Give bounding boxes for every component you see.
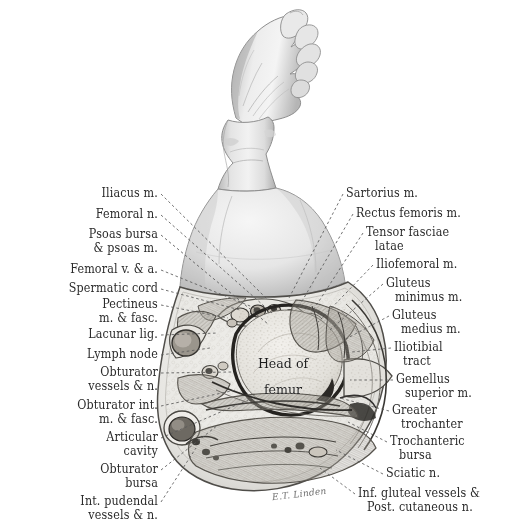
label-gluteus-minimus-line1: Gluteus bbox=[386, 276, 463, 290]
label-articular-cavity-line1: Articular bbox=[106, 430, 158, 444]
label-obturator-int-line2: m. & fasc. bbox=[77, 412, 158, 426]
label-femoral-v-a-line1: Femoral v. & a. bbox=[70, 262, 158, 276]
head-of-femur-line1: Head of bbox=[258, 356, 308, 371]
head-of-femur-line2: femur bbox=[264, 382, 302, 397]
label-femoral-nerve-line1: Femoral n. bbox=[96, 207, 158, 221]
foot-illustration bbox=[232, 10, 321, 124]
label-pectineus-line1: Pectineus bbox=[90, 297, 158, 311]
label-greater-troch-line1: Greater bbox=[392, 403, 463, 417]
label-iliotibial-tract-line1: Iliotibial bbox=[394, 340, 443, 354]
label-int-pudendal-line2: vessels & n. bbox=[79, 508, 158, 522]
label-femoral-v-a: Femoral v. & a. bbox=[70, 262, 158, 276]
label-iliotibial-tract-line2: tract bbox=[394, 354, 443, 368]
label-obturator-int-line1: Obturator int. bbox=[77, 398, 158, 412]
label-lacunar-lig-line1: Lacunar lig. bbox=[88, 327, 158, 341]
label-femoral-nerve: Femoral n. bbox=[96, 207, 158, 221]
label-spermatic-cord: Spermatic cord bbox=[69, 281, 158, 295]
head-of-femur-label: Head of femur bbox=[232, 344, 318, 409]
label-rectus-femoris-line1: Rectus femoris m. bbox=[356, 206, 461, 220]
label-int-pudendal: Int. pudendalvessels & n. bbox=[79, 494, 158, 521]
label-sartorius-line1: Sartorius m. bbox=[346, 186, 418, 200]
leg-illustration bbox=[218, 117, 276, 191]
label-gemellus-superior: Gemellussuperior m. bbox=[396, 372, 472, 399]
label-psoas-bursa-line1: Psoas bursa bbox=[84, 227, 158, 241]
label-sciatic-nerve: Sciatic n. bbox=[386, 466, 440, 480]
label-gluteus-minimus: Gluteusminimus m. bbox=[386, 276, 463, 303]
label-spermatic-cord-line1: Spermatic cord bbox=[69, 281, 158, 295]
label-gemellus-superior-line1: Gemellus bbox=[396, 372, 472, 386]
label-tensor-fasciae: Tensor fasciaelatae bbox=[366, 225, 449, 252]
label-trochanteric-bursa-line2: bursa bbox=[390, 448, 465, 462]
label-articular-cavity: Articularcavity bbox=[106, 430, 158, 457]
label-psoas-bursa: Psoas bursa& psoas m. bbox=[84, 227, 158, 254]
label-iliacus: Iliacus m. bbox=[102, 186, 158, 200]
label-gluteus-minimus-line2: minimus m. bbox=[386, 290, 463, 304]
label-obturator-vessels-line2: vessels & n. bbox=[79, 379, 158, 393]
label-lymph-node: Lymph node bbox=[87, 347, 158, 361]
label-sartorius: Sartorius m. bbox=[346, 186, 418, 200]
label-inf-gluteal-line2: Post. cutaneous n. bbox=[358, 500, 480, 514]
label-tensor-fasciae-line1: Tensor fasciae bbox=[366, 225, 449, 239]
label-gluteus-medius: Gluteusmedius m. bbox=[392, 308, 461, 335]
label-inf-gluteal-line1: Inf. gluteal vessels & bbox=[358, 486, 480, 500]
label-obturator-bursa: Obturatorbursa bbox=[100, 462, 158, 489]
label-pectineus-line2: m. & fasc. bbox=[90, 311, 158, 325]
label-lacunar-lig: Lacunar lig. bbox=[88, 327, 158, 341]
label-trochanteric-bursa-line1: Trochanteric bbox=[390, 434, 465, 448]
label-tensor-fasciae-line2: latae bbox=[366, 239, 449, 253]
label-obturator-bursa-line1: Obturator bbox=[100, 462, 158, 476]
label-iliotibial-tract: Iliotibialtract bbox=[394, 340, 443, 367]
label-rectus-femoris: Rectus femoris m. bbox=[356, 206, 461, 220]
label-psoas-bursa-line2: & psoas m. bbox=[84, 241, 158, 255]
label-greater-troch: Greatertrochanter bbox=[392, 403, 463, 430]
anatomical-plate: Iliacus m.Femoral n.Psoas bursa& psoas m… bbox=[0, 0, 520, 525]
label-sciatic-nerve-line1: Sciatic n. bbox=[386, 466, 440, 480]
label-obturator-vessels: Obturatorvessels & n. bbox=[79, 365, 158, 392]
label-gemellus-superior-line2: superior m. bbox=[396, 386, 472, 400]
label-gluteus-medius-line2: medius m. bbox=[392, 322, 461, 336]
label-obturator-int: Obturator int.m. & fasc. bbox=[77, 398, 158, 425]
label-articular-cavity-line2: cavity bbox=[106, 444, 158, 458]
label-inf-gluteal: Inf. gluteal vessels &Post. cutaneous n. bbox=[358, 486, 480, 513]
label-obturator-vessels-line1: Obturator bbox=[79, 365, 158, 379]
label-lymph-node-line1: Lymph node bbox=[87, 347, 158, 361]
label-obturator-bursa-line2: bursa bbox=[100, 476, 158, 490]
label-pectineus: Pectineusm. & fasc. bbox=[90, 297, 158, 324]
thigh-illustration bbox=[180, 188, 345, 299]
label-iliofemoral-line1: Iliofemoral m. bbox=[376, 257, 458, 271]
label-trochanteric-bursa: Trochantericbursa bbox=[390, 434, 465, 461]
label-iliacus-line1: Iliacus m. bbox=[102, 186, 158, 200]
label-iliofemoral: Iliofemoral m. bbox=[376, 257, 458, 271]
label-gluteus-medius-line1: Gluteus bbox=[392, 308, 461, 322]
label-greater-troch-line2: trochanter bbox=[392, 417, 463, 431]
label-int-pudendal-line1: Int. pudendal bbox=[79, 494, 158, 508]
